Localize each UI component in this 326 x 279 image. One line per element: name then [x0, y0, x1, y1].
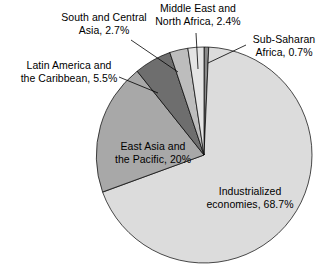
label-east-asia-pacific: East Asia and the Pacific, 20%	[101, 140, 205, 165]
label-industrialized-economies: Industrialized economies, 68.7%	[188, 185, 312, 210]
label-sub-saharan-africa: Sub-Saharan Africa, 0.7%	[243, 33, 325, 58]
label-latin-america-caribbean: Latin America and the Caribbean, 5.5%	[6, 59, 132, 84]
label-middle-east-north-africa: Middle East and North Africa, 2.4%	[146, 2, 250, 27]
pie-chart-figure: South and Central Asia, 2.7% Middle East…	[0, 0, 326, 279]
